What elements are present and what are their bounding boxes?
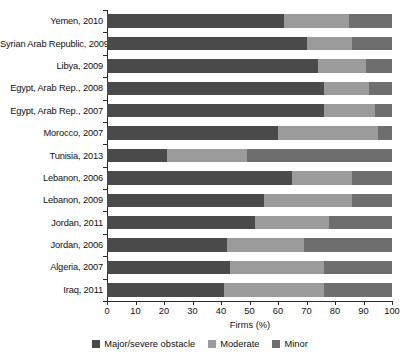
x-axis-tick-label: 10 — [121, 306, 151, 317]
category-label: Jordan, 2011 — [0, 218, 103, 228]
bar-segment — [230, 261, 324, 275]
bar-row — [107, 194, 392, 208]
x-axis-tick — [164, 301, 165, 305]
bar-segment — [329, 216, 392, 230]
bar-segment — [366, 59, 392, 73]
bar-segment — [255, 216, 329, 230]
y-axis-tick — [103, 55, 107, 56]
category-label: Tunisia, 2013 — [0, 151, 103, 161]
bar-row — [107, 216, 392, 230]
legend-label: Minor — [284, 339, 307, 349]
bar-segment — [107, 59, 318, 73]
bar-row — [107, 283, 392, 297]
y-axis-tick — [103, 77, 107, 78]
bar-segment — [107, 14, 284, 28]
bar-row — [107, 261, 392, 275]
bar-row — [107, 82, 392, 96]
bar-segment — [324, 283, 392, 297]
category-label: Yemen, 2010 — [0, 16, 103, 26]
bar-row — [107, 171, 392, 185]
x-axis-tick — [250, 301, 251, 305]
category-label: Algeria, 2007 — [0, 262, 103, 272]
x-axis-tick-label: 90 — [349, 306, 379, 317]
bar-segment — [107, 261, 230, 275]
bar-segment — [107, 238, 227, 252]
bar-segment — [324, 104, 375, 118]
x-axis-tick — [278, 301, 279, 305]
bar-row — [107, 37, 392, 51]
x-axis-tick-label: 80 — [320, 306, 350, 317]
bar-segment — [107, 37, 307, 51]
category-label: Egypt, Arab Rep., 2007 — [0, 106, 103, 116]
bar-segment — [352, 171, 392, 185]
plot-area — [107, 10, 392, 301]
x-axis-tick — [136, 301, 137, 305]
bar-segment — [378, 126, 392, 140]
y-axis-tick — [103, 279, 107, 280]
bar-row — [107, 126, 392, 140]
bar-segment — [107, 126, 278, 140]
bar-segment — [324, 82, 370, 96]
bar-segment — [304, 238, 392, 252]
y-axis-tick — [103, 167, 107, 168]
bar-segment — [324, 261, 392, 275]
bar-segment — [264, 194, 352, 208]
x-axis-tick — [364, 301, 365, 305]
bar-row — [107, 149, 392, 163]
bar-segment — [107, 283, 224, 297]
y-axis-tick — [103, 122, 107, 123]
x-axis-tick — [335, 301, 336, 305]
x-axis-tick — [307, 301, 308, 305]
category-label: Morocco, 2007 — [0, 128, 103, 138]
bar-segment — [224, 283, 324, 297]
y-axis-tick — [103, 144, 107, 145]
bar-row — [107, 14, 392, 28]
x-axis-title: Firms (%) — [107, 320, 393, 330]
category-label: Libya, 2009 — [0, 61, 103, 71]
x-axis-tick-label: 40 — [206, 306, 236, 317]
bar-segment — [284, 14, 350, 28]
category-label: Syrian Arab Republic, 2009 — [0, 39, 103, 49]
y-axis-tick — [103, 32, 107, 33]
x-axis-tick-label: 100 — [377, 306, 400, 317]
bar-segment — [107, 171, 292, 185]
legend-label: Moderate — [220, 339, 259, 349]
y-axis-tick — [103, 234, 107, 235]
x-axis-tick-label: 60 — [263, 306, 293, 317]
bar-segment — [369, 82, 392, 96]
x-axis-tick-label: 20 — [149, 306, 179, 317]
x-axis-tick-label: 50 — [235, 306, 265, 317]
x-axis-tick — [221, 301, 222, 305]
category-label: Jordan, 2006 — [0, 240, 103, 250]
x-axis-tick — [193, 301, 194, 305]
legend-item: Major/severe obstacle — [92, 339, 195, 349]
x-axis-tick-label: 30 — [178, 306, 208, 317]
category-axis-labels: Yemen, 2010Syrian Arab Republic, 2009Lib… — [0, 10, 103, 301]
legend-swatch-icon — [92, 340, 100, 348]
bar-row — [107, 238, 392, 252]
x-axis-tick-label: 70 — [292, 306, 322, 317]
bar-segment — [375, 104, 392, 118]
bar-segment — [349, 14, 392, 28]
category-label: Iraq, 2011 — [0, 285, 103, 295]
bar-segment — [107, 149, 167, 163]
bar-row — [107, 104, 392, 118]
bar-segment — [292, 171, 352, 185]
bar-segment — [167, 149, 247, 163]
stacked-bar-chart: Yemen, 2010Syrian Arab Republic, 2009Lib… — [0, 0, 400, 359]
category-label: Egypt, Arab Rep., 2008 — [0, 83, 103, 93]
bar-segment — [307, 37, 353, 51]
chart-legend: Major/severe obstacleModerateMinor — [0, 339, 400, 349]
bar-segment — [247, 149, 392, 163]
y-axis-tick — [103, 189, 107, 190]
bar-segment — [318, 59, 366, 73]
y-axis-tick — [103, 211, 107, 212]
legend-label: Major/severe obstacle — [104, 339, 195, 349]
y-axis-tick — [103, 10, 107, 11]
bar-segment — [352, 37, 392, 51]
legend-swatch-icon — [272, 340, 280, 348]
bar-segment — [107, 194, 264, 208]
y-axis-tick — [103, 100, 107, 101]
category-label: Lebanon, 2009 — [0, 195, 103, 205]
y-axis-tick — [103, 256, 107, 257]
